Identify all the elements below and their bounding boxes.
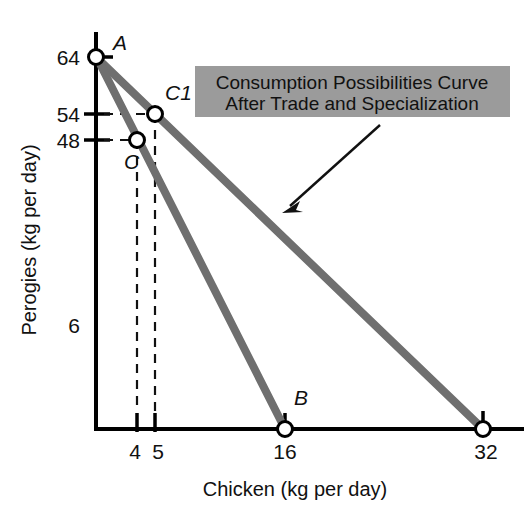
marker-point-c1[interactable]	[148, 107, 163, 122]
callout-line-2: After Trade and Specialization	[225, 93, 479, 114]
y-tick-label-54: 54	[57, 103, 81, 126]
y-tick-label-6: 6	[68, 314, 80, 337]
marker-point-b[interactable]	[278, 422, 293, 437]
consumption-possibilities-chart: A C1 C B 64 54 48 6 4 5 16 32 Chicken (k…	[0, 0, 530, 511]
callout-annotation: Consumption Possibilities Curve After Tr…	[195, 66, 510, 117]
x-tick-label-32: 32	[474, 440, 497, 463]
marker-point-c[interactable]	[130, 133, 145, 148]
label-point-c1: C1	[165, 81, 192, 104]
y-tick-label-48: 48	[57, 129, 80, 152]
y-axis-title: Perogies (kg per day)	[18, 144, 40, 335]
marker-point-32[interactable]	[476, 422, 491, 437]
x-axis-title: Chicken (kg per day)	[203, 478, 388, 500]
label-point-b: B	[294, 386, 308, 409]
label-point-c: C	[124, 150, 140, 173]
y-tick-label-64: 64	[57, 46, 81, 69]
callout-line-1: Consumption Possibilities Curve	[216, 72, 488, 93]
x-tick-label-5: 5	[152, 440, 164, 463]
label-point-a: A	[111, 31, 127, 54]
marker-point-a[interactable]	[89, 50, 104, 65]
x-tick-label-4: 4	[129, 440, 141, 463]
x-tick-label-16: 16	[273, 440, 296, 463]
